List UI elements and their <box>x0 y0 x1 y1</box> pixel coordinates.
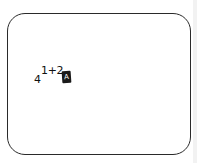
expression-exponent: 1+2 <box>41 65 63 76</box>
calculator-display[interactable]: 4 1+2 A <box>7 13 191 155</box>
page-edge <box>193 0 197 163</box>
cursor-icon: A <box>62 71 72 84</box>
expression-base: 4 <box>34 74 41 85</box>
